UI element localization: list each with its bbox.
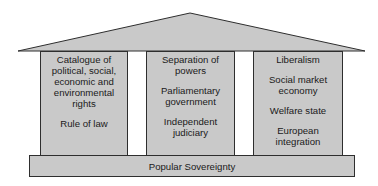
pillar-1-text: Catalogue of political, social, economic… <box>41 54 127 154</box>
pillar-1-item-2: Rule of law <box>41 118 127 129</box>
pillar-3-item-4: European integration <box>254 125 342 147</box>
pillar-2-item-2: Parliamentary government <box>147 85 234 107</box>
base-label: Popular Sovereignty <box>30 156 354 177</box>
pillar-2-item-1: Separation of powers <box>147 54 234 76</box>
pillar-3-text: Liberalism Social market economy Welfare… <box>254 54 342 154</box>
pillar-2-text: Separation of powers Parliamentary gover… <box>147 54 234 154</box>
pillar-3-item-3: Welfare state <box>254 105 342 116</box>
pillar-2-item-3: Independent judiciary <box>147 116 234 138</box>
pillar-3-item-1: Liberalism <box>254 54 342 65</box>
pillar-1-item-1: Catalogue of political, social, economic… <box>41 54 127 109</box>
pillar-3-item-2: Social market economy <box>254 74 342 96</box>
roof <box>18 13 365 51</box>
